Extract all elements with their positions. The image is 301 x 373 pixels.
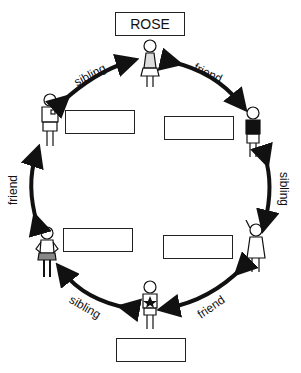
person-top-left-icon [36,92,64,149]
person-bottom-icon [137,280,163,332]
rose-name-box: ROSE [115,12,185,36]
answer-box-bottom-right[interactable] [163,235,233,259]
label-sibling-right: sibling [277,172,291,206]
person-top-right-icon [240,105,266,160]
answer-box-bottom[interactable] [116,338,186,362]
arrow-friend-bottomleft-topleft [31,155,37,223]
person-rose-icon [137,38,163,90]
answer-box-top-left[interactable] [65,110,135,134]
arrow-sibling-topright-bottomright [265,157,270,222]
answer-box-top-right[interactable] [164,116,234,140]
person-bottom-right-icon [240,220,270,275]
rose-name: ROSE [130,16,170,32]
label-friend-left: friend [6,175,20,205]
person-bottom-left-icon [33,225,61,280]
answer-box-bottom-left[interactable] [63,228,133,252]
